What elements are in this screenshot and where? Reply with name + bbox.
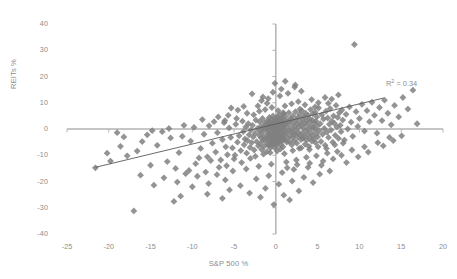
- data-point: [177, 193, 184, 200]
- data-point: [194, 173, 201, 180]
- data-point: [349, 133, 356, 140]
- data-point: [237, 182, 244, 189]
- data-point: [130, 208, 137, 215]
- data-point: [214, 129, 221, 136]
- data-point: [219, 195, 226, 202]
- data-point: [191, 124, 198, 131]
- data-point: [204, 191, 211, 198]
- data-point: [395, 114, 402, 121]
- data-point: [356, 115, 363, 122]
- data-point: [166, 125, 173, 132]
- data-point: [196, 154, 203, 161]
- data-point: [225, 112, 232, 119]
- data-point: [353, 108, 360, 115]
- data-point: [283, 159, 290, 166]
- data-point: [120, 133, 127, 140]
- data-point: [270, 89, 277, 96]
- data-point: [300, 174, 307, 181]
- data-point: [232, 121, 239, 128]
- data-point: [137, 172, 144, 179]
- data-point: [288, 100, 295, 107]
- data-point: [206, 122, 213, 129]
- data-point: [222, 143, 229, 150]
- data-point: [150, 182, 157, 189]
- data-point: [380, 142, 387, 149]
- data-point: [174, 179, 181, 186]
- r-squared-value: 0.34: [403, 79, 417, 88]
- data-point: [244, 110, 251, 117]
- data-point: [303, 154, 310, 161]
- data-point: [134, 148, 141, 155]
- data-point: [330, 156, 337, 163]
- data-point: [391, 102, 398, 109]
- data-point: [359, 101, 366, 108]
- data-point: [376, 104, 383, 111]
- data-point: [192, 160, 199, 167]
- data-point: [343, 159, 350, 166]
- data-point: [255, 103, 262, 110]
- data-point: [161, 174, 168, 181]
- data-point: [361, 143, 368, 150]
- data-point: [365, 149, 372, 156]
- data-point: [222, 177, 229, 184]
- data-point: [414, 120, 421, 127]
- data-point: [313, 152, 320, 159]
- data-point: [399, 94, 406, 101]
- data-point: [234, 139, 241, 146]
- data-point: [205, 180, 212, 187]
- data-point: [295, 188, 302, 195]
- data-point: [211, 118, 218, 125]
- data-point: [388, 121, 395, 128]
- data-point: [240, 103, 247, 110]
- data-point: [381, 97, 388, 104]
- r-squared-annotation: R2 = 0.34: [386, 78, 417, 88]
- data-point: [257, 194, 264, 201]
- data-point: [167, 135, 174, 142]
- data-point: [234, 107, 241, 114]
- data-point: [374, 139, 381, 146]
- data-point: [405, 106, 412, 113]
- data-point: [181, 122, 188, 129]
- data-point: [215, 114, 222, 121]
- data-point: [286, 196, 293, 203]
- data-point: [226, 125, 233, 132]
- data-point: [154, 142, 161, 149]
- data-point: [256, 108, 263, 115]
- data-point: [253, 175, 260, 182]
- data-point: [310, 179, 317, 186]
- data-point: [282, 78, 289, 85]
- data-point: [249, 90, 256, 97]
- data-point: [265, 172, 272, 179]
- data-point: [384, 110, 391, 117]
- data-point: [171, 198, 178, 205]
- data-point: [265, 95, 272, 102]
- y-axis-title: REITs %: [9, 44, 18, 104]
- data-point: [255, 163, 262, 170]
- data-point: [279, 169, 286, 176]
- scatter-chart: 403020100-10-20-30-40 -25-20-15-10-50510…: [0, 0, 457, 279]
- data-point: [316, 171, 323, 178]
- data-point: [366, 118, 373, 125]
- data-point: [212, 149, 219, 156]
- data-point: [289, 178, 296, 185]
- data-point: [355, 153, 362, 160]
- r-squared-text: R2 = 0.34: [386, 79, 417, 88]
- data-point: [104, 150, 111, 157]
- data-point: [281, 150, 288, 157]
- data-points-group: [92, 41, 420, 214]
- data-point: [351, 41, 358, 48]
- data-point: [295, 98, 302, 105]
- data-point: [335, 91, 342, 98]
- data-point: [326, 168, 333, 175]
- data-point: [374, 130, 381, 137]
- data-point: [348, 119, 355, 126]
- data-point: [325, 134, 332, 141]
- data-point: [202, 169, 209, 176]
- data-point: [246, 190, 253, 197]
- data-point: [268, 104, 275, 111]
- data-point: [379, 117, 386, 124]
- data-point: [285, 90, 292, 97]
- data-point: [144, 131, 151, 138]
- data-point: [302, 101, 309, 108]
- data-point: [333, 102, 340, 109]
